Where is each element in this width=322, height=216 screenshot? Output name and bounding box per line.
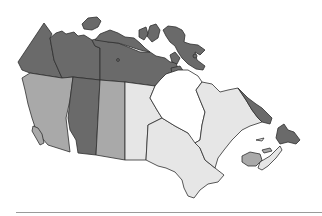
region-arctic-island-small-2 <box>117 59 120 62</box>
region-arctic-island-small <box>193 54 197 58</box>
region-arctic-island-banks[interactable] <box>82 17 101 30</box>
canada-map <box>0 0 322 216</box>
region-saskatchewan[interactable] <box>96 80 125 160</box>
gulf-island <box>256 138 264 141</box>
region-prince-edward-island[interactable] <box>262 148 272 153</box>
region-alberta[interactable] <box>68 77 100 155</box>
region-british-columbia[interactable] <box>22 73 73 152</box>
region-arctic-island-central[interactable] <box>147 24 160 42</box>
baseline-divider <box>16 212 322 213</box>
region-newfoundland[interactable] <box>276 124 300 144</box>
region-arctic-island-baffin-north[interactable] <box>139 27 148 40</box>
